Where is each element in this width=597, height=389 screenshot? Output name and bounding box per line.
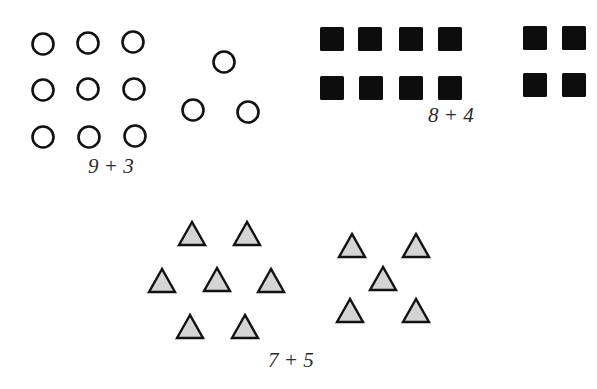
triangle-shape [370,267,396,290]
square-shape [399,27,423,51]
square-shape [438,27,462,51]
circle-shape [124,79,145,100]
square-shape [523,73,547,97]
square-shape [399,76,423,100]
square-shape [562,73,586,97]
triangle-shape [258,269,284,292]
square-shape [359,76,383,100]
circle-shape [78,33,99,54]
circle-shape [33,80,54,101]
triangle-shape [204,268,230,291]
circle-shape [214,52,235,73]
circle-shape [238,102,259,123]
label-7-plus-5: 7 + 5 [268,348,314,373]
circle-shape [78,79,99,100]
square-shape [562,26,586,50]
triangle-shape [337,299,363,322]
square-shape [320,27,344,51]
triangle-shape [179,222,205,245]
square-shape [320,76,344,100]
label-8-plus-4: 8 + 4 [428,103,474,128]
circle-shape [79,127,100,148]
triangle-shape [177,315,203,338]
label-9-plus-3: 9 + 3 [88,154,134,179]
triangle-shape [149,269,175,292]
circle-shape [125,126,146,147]
triangle-shape [339,234,365,257]
circle-shape [123,32,144,53]
circle-shape [183,100,204,121]
square-shape [438,76,462,100]
circle-shape [33,127,54,148]
square-shape [358,27,382,51]
counting-diagram [0,0,597,389]
circle-shape [33,34,54,55]
triangle-shape [234,222,260,245]
triangle-shape [403,234,429,257]
square-shape [523,26,547,50]
triangle-shape [232,315,258,338]
triangle-shape [403,299,429,322]
